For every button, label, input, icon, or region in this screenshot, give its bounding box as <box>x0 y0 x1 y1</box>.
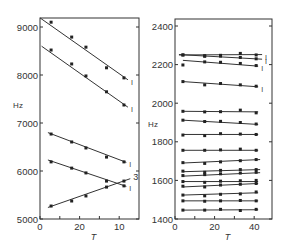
series-m <box>181 182 258 188</box>
series-end-label: I <box>131 106 133 113</box>
data-point <box>239 199 242 202</box>
data-point <box>181 119 184 122</box>
series-o <box>181 199 258 203</box>
data-point <box>84 74 87 77</box>
data-point <box>239 179 242 182</box>
series-end-label: I <box>131 79 133 86</box>
data-point <box>255 190 258 193</box>
series-d: I <box>181 80 263 93</box>
x-axis-label: T <box>91 232 98 242</box>
data-point <box>255 111 258 114</box>
series-line-3: 3 <box>48 172 138 208</box>
series-n <box>181 190 258 197</box>
series-p <box>181 208 258 212</box>
data-point <box>255 199 258 202</box>
y-axis-label: Hz <box>13 101 23 110</box>
series-g <box>181 132 258 137</box>
data-point <box>181 174 184 177</box>
data-point <box>255 182 258 185</box>
data-point <box>70 62 73 65</box>
data-point <box>181 199 184 202</box>
y-tick-label: 9000 <box>17 22 38 33</box>
data-point <box>255 158 258 161</box>
data-point <box>255 64 258 67</box>
data-point <box>239 159 242 162</box>
series-l <box>181 179 258 184</box>
data-point <box>84 146 87 149</box>
data-point <box>255 149 258 152</box>
data-point <box>203 181 206 184</box>
data-point <box>219 55 222 58</box>
data-point <box>239 168 242 171</box>
data-point <box>239 56 242 59</box>
data-point <box>105 66 108 69</box>
series-end-label: I <box>129 161 131 168</box>
y-tick-label: 1400 <box>152 214 173 225</box>
y-tick-label: 2400 <box>152 21 173 32</box>
data-point <box>203 134 206 137</box>
series-end-label: I <box>129 185 131 192</box>
data-point <box>84 46 87 49</box>
data-point <box>239 172 242 175</box>
series-end-label: I <box>261 86 263 93</box>
data-point <box>239 109 242 112</box>
data-point <box>219 160 222 163</box>
data-point <box>181 194 184 197</box>
data-point <box>70 36 73 39</box>
data-point <box>122 184 125 187</box>
series-a: I <box>179 52 267 61</box>
data-point <box>203 149 206 152</box>
y-tick-label: 2200 <box>152 59 173 70</box>
series-line-1d: I <box>48 160 131 192</box>
panel-2: 14001600180020002200240002040THzIIII <box>148 19 272 242</box>
data-point <box>219 61 222 64</box>
data-point <box>84 171 87 174</box>
data-point <box>255 123 258 126</box>
plot-frame <box>40 18 139 219</box>
x-axis-label: T <box>225 232 232 242</box>
data-point <box>203 185 206 188</box>
x-tick-label: 40 <box>249 221 260 232</box>
data-point <box>219 184 222 187</box>
y-axis-label: Hz <box>148 120 158 129</box>
series-h <box>181 148 258 152</box>
data-point <box>203 60 206 63</box>
data-point <box>219 110 222 113</box>
y-tick-label: 5000 <box>17 214 38 225</box>
data-point <box>239 52 242 55</box>
data-point <box>181 185 184 188</box>
data-point <box>239 121 242 124</box>
y-tick-label: 2000 <box>152 98 173 109</box>
data-point <box>70 167 73 170</box>
data-point <box>203 173 206 176</box>
series-e <box>181 109 258 115</box>
data-point <box>181 134 184 137</box>
data-point <box>239 148 242 151</box>
chart-canvas: 5000600070008000900002010THzIIII31400160… <box>0 0 287 245</box>
data-point <box>255 208 258 211</box>
x-tick-label: 20 <box>74 221 85 232</box>
y-tick-label: 8000 <box>17 70 38 81</box>
data-point <box>219 172 222 175</box>
data-point <box>203 162 206 165</box>
data-point <box>219 148 222 151</box>
data-point <box>105 90 108 93</box>
data-point <box>255 168 258 171</box>
data-point <box>255 57 258 60</box>
data-point <box>181 53 184 56</box>
data-point <box>219 208 222 211</box>
data-point <box>122 180 125 183</box>
fit-line <box>40 18 128 80</box>
data-point <box>219 120 222 123</box>
data-point <box>239 183 242 186</box>
data-point <box>239 209 242 212</box>
data-point <box>50 49 53 52</box>
series-line-1b: I <box>42 46 133 113</box>
data-point <box>255 53 258 56</box>
data-point <box>203 209 206 212</box>
data-point <box>181 149 184 152</box>
data-point <box>70 200 73 203</box>
data-point <box>203 55 206 58</box>
fit-line <box>48 179 130 208</box>
data-point <box>70 140 73 143</box>
